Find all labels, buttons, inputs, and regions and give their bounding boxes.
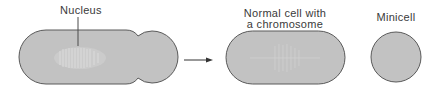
minicell-label: Minicell: [370, 12, 422, 23]
minicell: [371, 32, 421, 82]
normal-cell-label-line2: a chromosome: [235, 19, 335, 30]
nucleus-label: Nucleus: [60, 5, 100, 16]
nucleus: [54, 47, 106, 69]
arrow-icon: [184, 58, 213, 63]
dividing-cell: [19, 17, 178, 84]
normal-cell: [226, 31, 345, 84]
